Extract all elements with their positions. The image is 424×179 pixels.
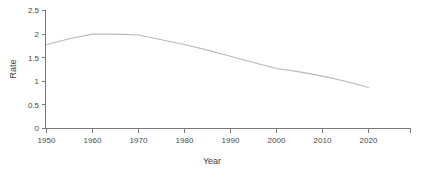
y-axis-title: Rate: [8, 59, 18, 78]
y-tick-label-0: 0: [35, 124, 40, 133]
y-tick-label-2.5: 2.5: [28, 6, 40, 15]
series-group: [47, 34, 369, 87]
series-line-rate: [47, 34, 369, 87]
x-tick-label-1970: 1970: [130, 136, 148, 145]
x-axis-tick-labels: 1950 1960 1970 1980 1990 2000 2010 2020: [38, 136, 378, 145]
y-axis-group: 0 0.5 1 1.5 2 2.5 Rate: [8, 6, 46, 133]
y-tick-label-1: 1: [35, 77, 40, 86]
y-axis-ticks: [42, 11, 46, 129]
y-tick-label-0.5: 0.5: [28, 101, 40, 110]
line-chart-plot: 0 0.5 1 1.5 2 2.5 Rate: [0, 0, 424, 179]
x-tick-label-1950: 1950: [38, 136, 56, 145]
x-axis-ticks: [47, 129, 411, 133]
y-tick-label-2: 2: [35, 30, 40, 39]
x-axis-group: 1950 1960 1970 1980 1990 2000 2010 2020 …: [38, 129, 411, 167]
x-axis-title: Year: [203, 156, 221, 166]
x-tick-label-1980: 1980: [176, 136, 194, 145]
x-tick-label-1990: 1990: [222, 136, 240, 145]
x-tick-label-2020: 2020: [360, 136, 378, 145]
y-tick-label-1.5: 1.5: [28, 54, 40, 63]
x-tick-label-1960: 1960: [84, 136, 102, 145]
y-axis-tick-labels: 0 0.5 1 1.5 2 2.5: [28, 6, 40, 133]
x-tick-label-2010: 2010: [314, 136, 332, 145]
x-tick-label-2000: 2000: [268, 136, 286, 145]
chart-container: 0 0.5 1 1.5 2 2.5 Rate: [0, 0, 424, 179]
